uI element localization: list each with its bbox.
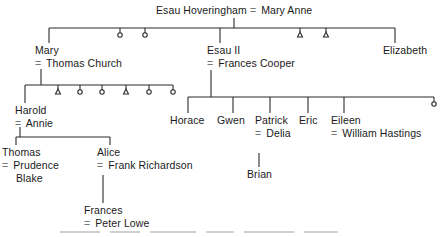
spouse-name: Frances Cooper — [218, 57, 295, 69]
root-wife: Mary Anne — [261, 4, 312, 16]
person-frances: Frances = Peter Lowe — [84, 204, 149, 230]
person-name: Gwen — [217, 114, 245, 127]
marriage-symbol: = — [207, 57, 213, 69]
person-name: Eric — [299, 114, 317, 127]
person-name: Horace — [170, 114, 204, 127]
person-gwen: Gwen — [217, 114, 245, 127]
marriage-symbol: = — [2, 159, 8, 171]
person-name: Brian — [247, 168, 272, 181]
spouse-name: William Hastings — [342, 127, 421, 139]
cutoff-caption — [60, 231, 360, 237]
person-alice: Alice = Frank Richardson — [97, 146, 193, 172]
marriage-symbol: = — [35, 57, 41, 69]
person-horace: Horace — [170, 114, 204, 127]
root-couple: Esau Hoveringham = Mary Anne — [156, 4, 312, 17]
marriage-symbol: = — [15, 117, 21, 129]
person-name: Esau II — [207, 44, 295, 57]
person-eric: Eric — [299, 114, 317, 127]
person-name: Frances — [84, 204, 149, 217]
person-name: Harold — [15, 104, 53, 117]
person-patrick: Patrick = Delia — [255, 114, 291, 140]
person-name: Eileen — [331, 114, 421, 127]
spouse-name: Delia — [266, 127, 290, 139]
person-name: Thomas — [2, 146, 59, 159]
spouse-name: Peter Lowe — [95, 217, 149, 229]
person-elizabeth: Elizabeth — [383, 44, 427, 57]
person-brian: Brian — [247, 168, 272, 181]
person-name: Alice — [97, 146, 193, 159]
spouse-name: Frank Richardson — [108, 159, 192, 171]
spouse-name: Thomas Church — [46, 57, 122, 69]
marriage-symbol: = — [84, 217, 90, 229]
person-mary: Mary = Thomas Church — [35, 44, 122, 70]
person-name: Mary — [35, 44, 122, 57]
person-esau-ii: Esau II = Frances Cooper — [207, 44, 295, 70]
spouse-name: Prudence — [13, 159, 59, 171]
person-harold: Harold = Annie — [15, 104, 53, 130]
marriage-symbol: = — [97, 159, 103, 171]
person-eileen: Eileen = William Hastings — [331, 114, 421, 140]
spouse-name-cont: Blake — [2, 172, 59, 185]
marriage-symbol: = — [255, 127, 261, 139]
marriage-symbol: = — [331, 127, 337, 139]
person-thomas: Thomas = Prudence Blake — [2, 146, 59, 185]
person-name: Elizabeth — [383, 44, 427, 57]
spouse-name: Annie — [26, 117, 53, 129]
person-name: Patrick — [255, 114, 291, 127]
marriage-symbol: = — [250, 4, 256, 16]
root-husband: Esau Hoveringham — [156, 4, 247, 16]
